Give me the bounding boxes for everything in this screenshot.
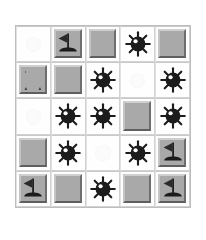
tile-smudge-mark [25,71,27,73]
board-row [16,26,190,62]
mine-icon [125,31,151,57]
covered-tile[interactable] [89,29,117,58]
cell-row3-col4[interactable] [120,98,155,134]
cell-row4-col5[interactable] [155,135,190,171]
cell-row4-col3[interactable] [86,135,121,171]
cell-row3-col5[interactable] [155,98,190,134]
board-row [16,98,190,134]
revealed-ghost-circle [26,37,41,53]
flag-icon [19,175,47,203]
revealed-ghost-circle [130,73,145,89]
mine-icon [160,67,186,93]
cell-row5-col5[interactable] [155,171,190,207]
cell-row1-col1[interactable] [16,26,51,62]
cell-row3-col1[interactable] [16,98,51,134]
cell-row4-col2[interactable] [51,135,86,171]
mine-icon [90,103,116,129]
covered-tile[interactable] [123,101,151,130]
flag-icon [159,139,187,167]
covered-tile[interactable] [19,65,47,94]
cell-row5-col3[interactable] [86,171,121,207]
covered-tile[interactable] [19,138,47,167]
cell-row5-col4[interactable] [120,171,155,207]
flag-icon [54,30,82,58]
board-row [16,171,190,207]
cell-row2-col4[interactable] [120,62,155,98]
cell-row1-col2[interactable] [51,26,86,62]
cell-row4-col1[interactable] [16,135,51,171]
tile-smudge-mark [38,87,41,90]
covered-tile[interactable] [158,29,186,58]
cell-row5-col1[interactable] [16,171,51,207]
cell-row2-col1[interactable] [16,62,51,98]
cell-row4-col4[interactable] [120,135,155,171]
mine-icon [90,176,116,202]
covered-tile[interactable] [123,174,151,203]
covered-tile[interactable] [54,65,82,94]
cell-row1-col4[interactable] [120,26,155,62]
cell-row3-col2[interactable] [51,98,86,134]
cell-row1-col5[interactable] [155,26,190,62]
mine-icon [55,140,81,166]
board-row [16,62,190,98]
minesweeper-board[interactable] [15,25,191,208]
cell-row3-col3[interactable] [86,98,121,134]
mine-icon [160,103,186,129]
tile-smudge-mark [24,87,27,90]
revealed-ghost-circle [26,109,41,125]
cell-row2-col2[interactable] [51,62,86,98]
cell-row1-col3[interactable] [86,26,121,62]
board-row [16,135,190,171]
cell-row5-col2[interactable] [51,171,86,207]
cell-row2-col5[interactable] [155,62,190,98]
mine-icon [55,103,81,129]
mine-icon [125,140,151,166]
flag-icon [159,175,187,203]
covered-tile[interactable] [54,174,82,203]
revealed-ghost-circle [95,145,110,161]
mine-icon [90,67,116,93]
cell-row2-col3[interactable] [86,62,121,98]
